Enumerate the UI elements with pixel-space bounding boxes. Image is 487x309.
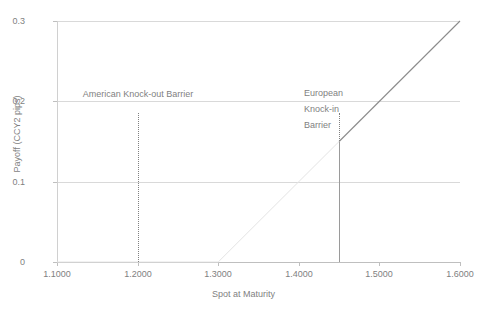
american-knock-out-barrier-line <box>138 113 139 262</box>
european-knock-in-barrier-line-upper <box>339 113 340 141</box>
x-tick-label-1.5000: 1.5000 <box>365 270 393 279</box>
x-tick-label-1.2000: 1.2000 <box>124 270 152 279</box>
x-tick-mark-1.6000 <box>460 262 461 266</box>
x-tick-label-1.4000: 1.4000 <box>285 270 313 279</box>
european-knock-in-barrier-label-line3: Barrier <box>304 120 331 131</box>
x-tick-label-1.3000: 1.3000 <box>204 270 232 279</box>
payoff-chart: 0.3 0.2 0.1 0 1.1000 1.2000 1.3000 1.400… <box>0 0 487 309</box>
plot-area <box>57 21 460 262</box>
european-knock-in-barrier-label-line2: Knock-in <box>304 104 339 115</box>
american-knock-out-barrier-label: American Knock-out Barrier <box>83 89 194 100</box>
x-tick-mark-1.3000 <box>218 262 219 266</box>
x-tick-label-1.1000: 1.1000 <box>43 270 71 279</box>
european-knock-in-barrier-label-line1: European <box>304 88 343 99</box>
series-knock-in-payoff-line <box>339 21 460 142</box>
series-vanilla-payoff-line <box>57 142 339 263</box>
payoff-series-group <box>57 21 460 262</box>
y-tick-label-0.3: 0.3 <box>12 17 25 26</box>
x-tick-mark-1.4000 <box>299 262 300 266</box>
y-tick-label-0: 0 <box>20 258 25 267</box>
y-axis-title: Payoff (CCY2 pips) <box>12 54 22 214</box>
x-axis-title: Spot at Maturity <box>0 289 487 299</box>
x-tick-label-1.6000: 1.6000 <box>446 270 474 279</box>
x-tick-mark-1.5000 <box>379 262 380 266</box>
european-knock-in-barrier-line-lower <box>339 142 340 263</box>
x-tick-mark-1.2000 <box>138 262 139 266</box>
x-tick-mark-1.1000 <box>57 262 58 266</box>
